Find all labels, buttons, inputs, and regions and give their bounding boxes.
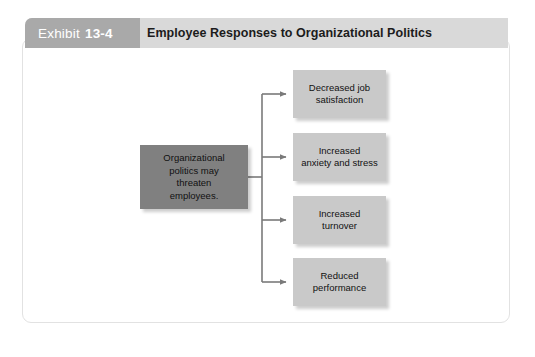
source-line-3: threaten [177, 177, 212, 188]
outcome-4-line-1: Reduced [320, 270, 358, 281]
diagram-canvas: Organizational politics may threaten emp… [0, 0, 535, 357]
outcome-node-1: Decreased job satisfaction [293, 70, 386, 118]
source-line-1: Organizational [163, 152, 224, 163]
outcome-node-4-label: Reduced performance [313, 270, 366, 295]
outcome-1-line-1: Decreased job [309, 82, 370, 93]
source-line-4: employees. [170, 190, 219, 201]
outcome-node-1-label: Decreased job satisfaction [309, 82, 370, 107]
source-node-label: Organizational politics may threaten emp… [163, 152, 224, 202]
outcome-2-line-2: anxiety and stress [301, 157, 378, 168]
outcome-3-line-2: turnover [322, 220, 357, 231]
exhibit-figure: Exhibit 13-4 Employee Responses to Organ… [0, 0, 535, 357]
outcome-node-3-label: Increased turnover [319, 208, 361, 233]
outcome-2-line-1: Increased [319, 145, 361, 156]
source-node: Organizational politics may threaten emp… [140, 145, 248, 209]
source-line-2: politics may [169, 165, 219, 176]
outcome-node-4: Reduced performance [293, 258, 386, 306]
outcome-4-line-2: performance [313, 282, 366, 293]
connector-lines [0, 0, 535, 357]
outcome-1-line-2: satisfaction [316, 94, 364, 105]
outcome-node-2-label: Increased anxiety and stress [301, 145, 378, 170]
outcome-node-3: Increased turnover [293, 196, 386, 244]
outcome-node-2: Increased anxiety and stress [293, 133, 386, 181]
outcome-3-line-1: Increased [319, 208, 361, 219]
